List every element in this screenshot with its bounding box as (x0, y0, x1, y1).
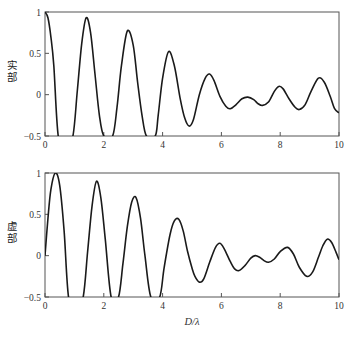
x-tick-label: 8 (278, 140, 283, 150)
x-tick-label: 4 (160, 301, 165, 311)
y-axis-label: 实部 (7, 59, 17, 83)
imaginary-part-curve (45, 173, 339, 318)
y-tick-label: 0 (36, 251, 41, 261)
chart-panel-real-part: 10.50−0.5 0246810 实部 (7, 8, 344, 153)
x-axis-ticks: 0246810 (43, 132, 344, 150)
x-tick-label: 4 (160, 140, 165, 150)
x-tick-label: 6 (219, 140, 224, 150)
x-axis-ticks: 0246810 (43, 293, 344, 311)
x-tick-label: 6 (219, 301, 224, 311)
x-axis-label: D/λ (183, 316, 200, 327)
y-tick-label: −0.5 (24, 293, 41, 303)
y-tick-label: −0.5 (24, 132, 41, 142)
x-tick-label: 0 (43, 140, 48, 150)
y-tick-label: 0 (36, 90, 41, 100)
x-tick-label: 2 (101, 140, 106, 150)
x-tick-label: 0 (43, 301, 48, 311)
x-tick-label: 2 (101, 301, 106, 311)
chart-panel-imaginary-part: 10.50−0.5 0246810 虚部 (7, 169, 344, 318)
y-tick-label: 0.5 (29, 210, 41, 220)
x-tick-label: 8 (278, 301, 283, 311)
y-tick-label: 0.5 (29, 49, 41, 59)
y-tick-label: 1 (36, 169, 41, 179)
real-part-curve (45, 12, 339, 153)
y-axis-label: 虚部 (7, 220, 17, 244)
figure: 10.50−0.5 0246810 实部 10.50−0.5 0246810 虚… (0, 0, 353, 339)
y-tick-label: 1 (36, 8, 41, 18)
x-tick-label: 10 (334, 301, 344, 311)
plot-frame (45, 12, 339, 136)
x-tick-label: 10 (334, 140, 344, 150)
